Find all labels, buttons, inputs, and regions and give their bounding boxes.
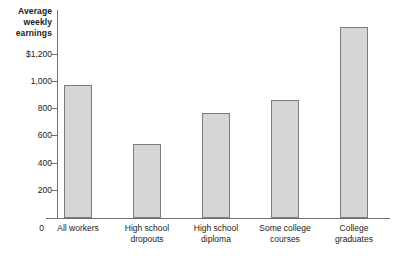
- y-axis-title: Average weekly earnings: [0, 6, 52, 39]
- y-axis-title-line-1: Average: [0, 6, 52, 17]
- y-tick-label-1000: 1,000: [0, 77, 52, 86]
- y-axis-title-line-2: weekly: [0, 17, 52, 28]
- x-label-college-graduates: College graduates: [311, 223, 396, 245]
- bar-college-graduates: [340, 27, 368, 218]
- y-tick-label-1200: $1,200: [0, 50, 52, 59]
- x-axis-line: [46, 218, 390, 219]
- x-label-line-1: College: [311, 223, 396, 234]
- bar-chart: Average weekly earnings $1,200 1,000 800…: [0, 0, 396, 261]
- bar-high-school-diploma: [202, 113, 230, 218]
- y-tick-label-200: 200: [0, 186, 52, 195]
- bar-high-school-dropouts: [133, 144, 161, 218]
- y-tick-label-800: 800: [0, 104, 52, 113]
- x-label-line-2: graduates: [311, 234, 396, 245]
- y-axis-title-line-3: earnings: [0, 28, 52, 39]
- bar-some-college-courses: [271, 100, 299, 218]
- y-tick-label-600: 600: [0, 131, 52, 140]
- bar-all-workers: [64, 85, 92, 218]
- plot-area: [57, 10, 390, 218]
- y-tick-label-400: 400: [0, 159, 52, 168]
